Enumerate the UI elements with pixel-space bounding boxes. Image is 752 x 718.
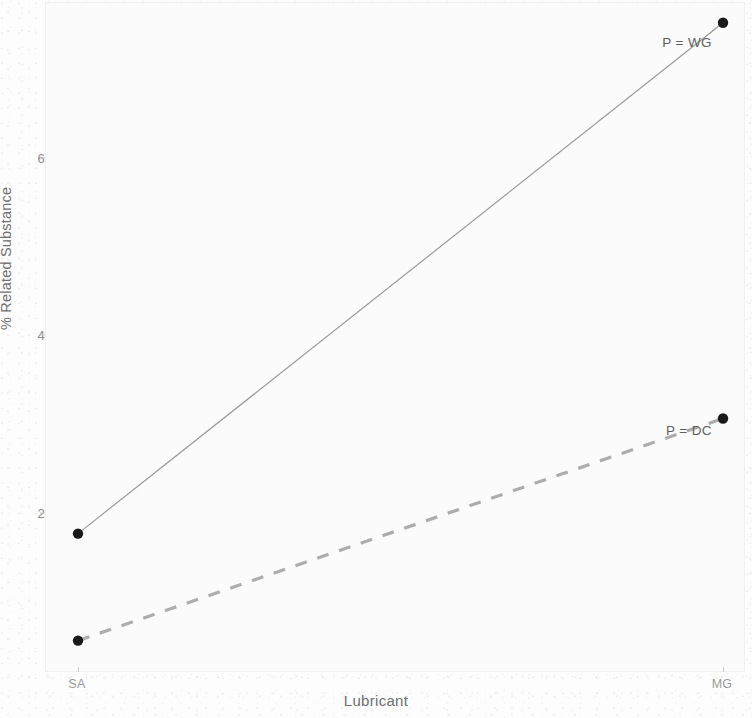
series-line-wg (78, 23, 723, 534)
series-annotation-dc: P = DC (666, 423, 712, 438)
series-annotation-wg: P = WG (662, 35, 712, 50)
x-tick-mark-sa (78, 667, 79, 672)
x-axis-title: Lubricant (0, 692, 752, 709)
x-tick-mark-mg (723, 667, 724, 672)
plot-area (46, 3, 746, 673)
x-tick-label-sa: SA (68, 677, 85, 691)
data-point-wg-mg[interactable] (718, 18, 728, 28)
data-point-dc-mg[interactable] (718, 413, 728, 423)
x-tick-label-mg: MG (712, 677, 733, 691)
data-point-wg-sa[interactable] (73, 528, 83, 538)
plot-panel (45, 2, 745, 672)
series-line-dc (78, 418, 723, 640)
y-axis-title: % Related Substance (0, 187, 14, 330)
interaction-plot-figure: % Related Substance 2 4 6 SA MG Lubrican… (0, 0, 752, 718)
data-point-dc-sa[interactable] (73, 635, 83, 645)
